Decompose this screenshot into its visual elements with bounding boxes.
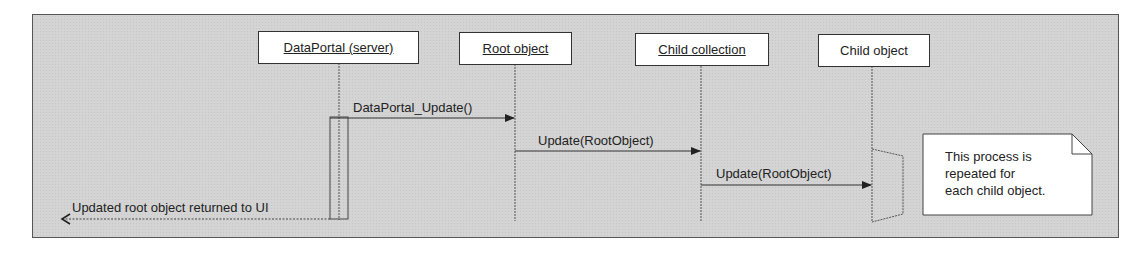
loop-repeat-shape xyxy=(872,149,903,222)
message-label: Updated root object returned to UI xyxy=(72,200,269,215)
participant-label: Root object xyxy=(483,41,549,56)
participant-root-object: Root object xyxy=(459,32,572,65)
note-line: repeated for xyxy=(945,165,1045,182)
note-text: This process is repeated for each child … xyxy=(945,148,1045,199)
participant-label: Child object xyxy=(840,43,908,58)
note-line: each child object. xyxy=(945,182,1045,199)
participant-child-object: Child object xyxy=(818,34,930,67)
participant-dataportal: DataPortal (server) xyxy=(258,31,419,64)
message-label: DataPortal_Update() xyxy=(353,100,472,115)
participant-label: Child collection xyxy=(658,42,745,57)
message-label: Update(RootObject) xyxy=(538,133,654,148)
participant-label: DataPortal (server) xyxy=(284,40,394,55)
note-line: This process is xyxy=(945,148,1045,165)
diagram-lines xyxy=(0,0,1148,256)
participant-child-collection: Child collection xyxy=(635,33,769,66)
message-label: Update(RootObject) xyxy=(716,166,832,181)
